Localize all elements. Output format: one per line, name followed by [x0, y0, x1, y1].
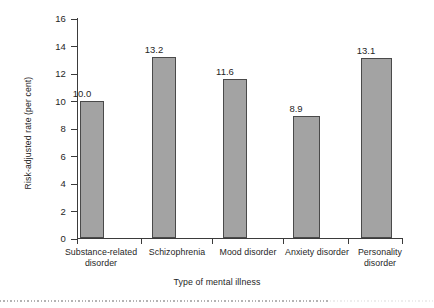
bottom-dotted-rule-fade: [330, 300, 434, 302]
x-axis-category-line-2: disorder: [55, 258, 147, 269]
y-axis-tick-10: [71, 101, 77, 102]
y-axis-tick-label-4: 4: [61, 179, 66, 189]
bar-schizophrenia: [152, 57, 176, 239]
x-axis-category-label-substance-related-disorder: Substance-related disorder: [55, 247, 147, 269]
y-axis-tick-label-2: 2: [61, 207, 66, 217]
x-axis-tick-5: [402, 239, 403, 244]
y-axis-tick-label-12: 12: [55, 69, 66, 79]
bar-value-label-personality-disorder: 13.1: [340, 46, 392, 56]
y-axis-tick-8: [71, 129, 77, 130]
bar-mood-disorder: [223, 79, 247, 239]
y-axis-tick-6: [71, 156, 77, 157]
bar-anxiety-disorder: [293, 116, 320, 238]
bar-value-label-anxiety-disorder: 8.9: [272, 104, 320, 114]
bar-chart-figure: Risk-adjusted rate (per cent) 0 2 4 6 8 …: [0, 0, 434, 308]
x-axis-category-line-1: Schizophrenia: [140, 247, 214, 258]
bar-value-label-substance-related-disorder: 10.0: [60, 89, 104, 99]
x-axis-tick-0: [77, 239, 78, 244]
x-axis-line: [77, 238, 403, 239]
y-axis-tick-12: [71, 74, 77, 75]
bottom-dotted-rule: [0, 300, 330, 302]
x-axis-category-label-schizophrenia: Schizophrenia: [140, 247, 214, 258]
y-axis-tick-label-16: 16: [55, 14, 66, 24]
x-axis-tick-1: [141, 239, 142, 244]
y-axis-tick-2: [71, 211, 77, 212]
bar-value-label-mood-disorder: 11.6: [203, 67, 247, 77]
bar-value-label-schizophrenia: 13.2: [132, 45, 176, 55]
y-axis-tick-label-6: 6: [61, 152, 66, 162]
x-axis-category-line-1: Substance-related: [55, 247, 147, 258]
y-axis-tick-label-14: 14: [55, 42, 66, 52]
bar-substance-related-disorder: [80, 101, 104, 239]
y-axis-tick-4: [71, 184, 77, 185]
x-axis-tick-4: [348, 239, 349, 244]
x-axis-category-label-personality-disorder: Personality disorder: [343, 247, 417, 269]
x-axis-tick-3: [283, 239, 284, 244]
y-axis-tick-14: [71, 46, 77, 47]
y-axis-tick-label-8: 8: [61, 124, 66, 134]
bar-personality-disorder: [361, 58, 392, 238]
x-axis-category-line-2: disorder: [343, 258, 417, 269]
x-axis-category-line-1: Personality: [343, 247, 417, 258]
y-axis-title: Risk-adjusted rate (per cent): [23, 43, 33, 223]
x-axis-tick-2: [212, 239, 213, 244]
y-axis-tick-16: [71, 19, 77, 20]
y-axis-tick-label-0: 0: [61, 234, 66, 244]
x-axis-title: Type of mental illness: [0, 277, 434, 287]
